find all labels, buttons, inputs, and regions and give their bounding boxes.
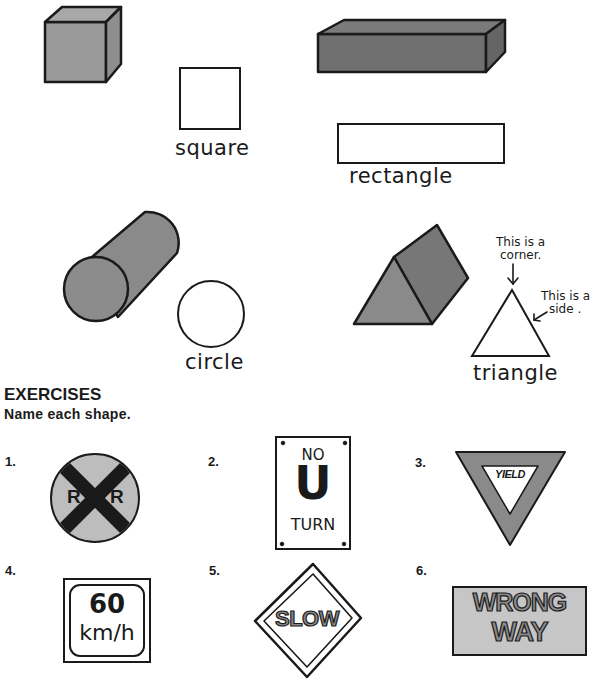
speed-limit-value: 60 [70, 589, 144, 619]
circle-shape [178, 281, 244, 347]
exercise-number-5: 5. [209, 563, 220, 578]
no-u-turn-line2: U [276, 458, 350, 508]
railroad-sign-right-r: R [110, 486, 124, 508]
no-u-turn-line3: TURN [276, 515, 350, 534]
cube-shape [45, 7, 121, 82]
rectangle-shape [338, 124, 504, 163]
square-shape [180, 68, 240, 129]
triangle-shape [472, 290, 549, 356]
yield-sign [456, 452, 565, 545]
railroad-crossing-sign [51, 454, 139, 542]
rectangle-label: rectangle [349, 164, 453, 188]
circle-label: circle [185, 350, 244, 374]
triangle-label: triangle [473, 361, 558, 385]
rectangular-prism-shape [318, 20, 505, 72]
corner-annotation-line2: corner. [496, 249, 545, 262]
corner-annotation: This is a corner. [496, 236, 545, 262]
railroad-sign-left-r: R [67, 486, 81, 508]
exercise-number-3: 3. [415, 455, 426, 470]
exercises-title: EXERCISES [4, 385, 101, 405]
square-label: square [175, 136, 250, 160]
wrong-way-line1: WRONG [453, 588, 586, 617]
speed-limit-unit: km/h [70, 620, 144, 645]
exercise-number-1: 1. [5, 454, 16, 469]
slow-sign-text: SLOW [269, 606, 345, 632]
corner-arrow-icon [508, 264, 518, 284]
exercise-number-2: 2. [208, 454, 219, 469]
yield-sign-text: YIELD [484, 468, 536, 480]
side-annotation: This is a side . [541, 290, 590, 316]
cylinder-shape [64, 212, 179, 321]
wrong-way-line2: WAY [453, 617, 586, 648]
side-annotation-line2: side . [541, 303, 590, 316]
exercise-number-6: 6. [416, 563, 427, 578]
exercise-number-4: 4. [5, 563, 16, 578]
triangular-prism-shape [354, 225, 468, 324]
exercises-instruction: Name each shape. [4, 406, 131, 422]
